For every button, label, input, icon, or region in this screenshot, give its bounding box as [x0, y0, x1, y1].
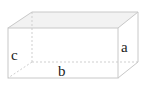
label-b: b: [58, 63, 66, 79]
label-c: c: [11, 47, 18, 63]
cuboid-diagram: a b c: [0, 0, 147, 86]
label-a: a: [121, 39, 128, 55]
